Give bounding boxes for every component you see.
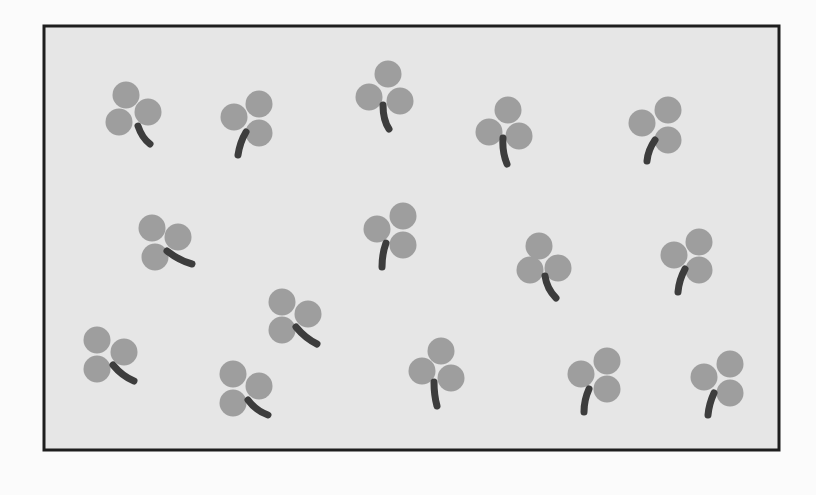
clover-leaf	[375, 61, 402, 88]
clover-scene	[0, 0, 816, 495]
clover-leaf	[295, 301, 322, 328]
clover-leaf	[594, 376, 621, 403]
clover-leaf	[84, 327, 111, 354]
clover-leaf	[111, 339, 138, 366]
clover-leaf	[506, 123, 533, 150]
clover-leaf	[269, 289, 296, 316]
clover-leaf	[165, 224, 192, 251]
clover-stem	[434, 382, 437, 406]
clover-stem	[382, 243, 386, 267]
clover-leaf	[526, 233, 553, 260]
clover-leaf	[476, 119, 503, 146]
clover-leaf	[438, 365, 465, 392]
clover-leaf	[655, 127, 682, 154]
clover-leaf	[428, 338, 455, 365]
clover-leaf	[142, 244, 169, 271]
clover-leaf	[84, 356, 111, 383]
clover-leaf	[220, 361, 247, 388]
clover-leaf	[629, 110, 656, 137]
clover-leaf	[568, 361, 595, 388]
clover-leaf	[269, 317, 296, 344]
clover-leaf	[364, 216, 391, 243]
clover-leaf	[517, 257, 544, 284]
clover-leaf	[390, 232, 417, 259]
clover-leaf	[594, 348, 621, 375]
clover-leaf	[655, 97, 682, 124]
clover-leaf	[390, 203, 417, 230]
clover-leaf	[135, 99, 162, 126]
clover-leaf	[246, 373, 273, 400]
clover-leaf	[221, 104, 248, 131]
clover-leaf	[246, 91, 273, 118]
clover-leaf	[246, 120, 273, 147]
clover-leaf	[686, 257, 713, 284]
clover-leaf	[717, 380, 744, 407]
clover-leaf	[717, 351, 744, 378]
clover-leaf	[686, 229, 713, 256]
clover-leaf	[356, 84, 383, 111]
clover-leaf	[495, 97, 522, 124]
clover-leaf	[661, 242, 688, 269]
clover-leaf	[113, 82, 140, 109]
clover-leaf	[220, 390, 247, 417]
clover-leaf	[691, 364, 718, 391]
clover-leaf	[387, 88, 414, 115]
clover-leaf	[139, 215, 166, 242]
clover-leaf	[106, 109, 133, 136]
